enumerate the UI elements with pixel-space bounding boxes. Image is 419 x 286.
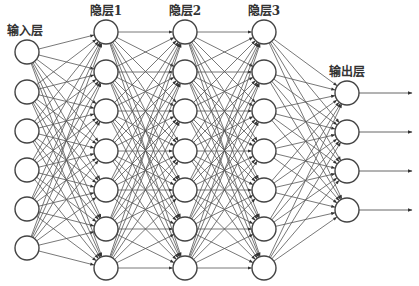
- connection-edge: [39, 35, 94, 49]
- hidden2-node: [173, 99, 197, 123]
- hidden3-node: [252, 139, 276, 163]
- input-node: [15, 119, 39, 143]
- layer-label-hidden3: 隐层3: [248, 3, 280, 18]
- hidden3-node: [252, 178, 276, 202]
- hidden3-node: [252, 217, 276, 241]
- connection-edge: [32, 43, 101, 198]
- connection-edge: [270, 42, 340, 160]
- output-node: [335, 159, 359, 183]
- neural-network-diagram: 输入层 隐层1 隐层2 隐层3 输出层: [0, 0, 419, 286]
- layer-label-input: 输入层: [7, 23, 43, 38]
- hidden1-node: [94, 256, 118, 280]
- connection-edge: [269, 104, 342, 257]
- connection-edge: [37, 40, 96, 85]
- connection-edge: [32, 83, 101, 237]
- hidden2-node: [173, 139, 197, 163]
- connection-edge: [35, 161, 99, 239]
- connection-edge: [274, 39, 337, 85]
- hidden3-node: [252, 256, 276, 280]
- output-node: [335, 120, 359, 144]
- hidden3-node: [252, 20, 276, 44]
- output-arrows: [359, 93, 412, 210]
- hidden3-node: [252, 99, 276, 123]
- layer-label-output: 输出层: [329, 64, 365, 79]
- connection-edge: [33, 43, 100, 160]
- hidden2-node: [173, 60, 197, 84]
- hidden2-node: [173, 217, 197, 241]
- input-node: [15, 197, 39, 221]
- input-node: [15, 236, 39, 260]
- hidden1-node: [94, 139, 118, 163]
- input-node: [15, 158, 39, 182]
- output-node: [335, 198, 359, 222]
- connection-edge: [274, 217, 337, 261]
- connection-edge: [272, 180, 339, 258]
- output-node: [335, 81, 359, 105]
- hidden1-node: [94, 99, 118, 123]
- layer-label-hidden1: 隐层1: [90, 3, 122, 18]
- connection-edge: [272, 102, 339, 180]
- hidden1-node: [94, 178, 118, 202]
- connection-edge: [272, 120, 339, 200]
- hidden2-node: [173, 178, 197, 202]
- layer-label-hidden2: 隐层2: [169, 3, 201, 18]
- connection-edge: [272, 41, 339, 122]
- neuron-nodes: [15, 20, 359, 280]
- hidden3-node: [252, 60, 276, 84]
- hidden1-node: [94, 20, 118, 44]
- hidden1-node: [94, 217, 118, 241]
- input-node: [15, 40, 39, 64]
- hidden2-node: [173, 256, 197, 280]
- input-node: [15, 80, 39, 104]
- hidden1-node: [94, 60, 118, 84]
- hidden2-node: [173, 20, 197, 44]
